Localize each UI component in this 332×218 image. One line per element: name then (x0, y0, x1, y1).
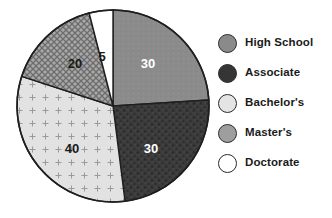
pie-slice-associate (113, 100, 209, 201)
legend-label-doctorate: Doctorate (245, 157, 300, 169)
pie-value-label-masters: 20 (68, 56, 82, 71)
legend-item-masters[interactable]: Master's (218, 122, 292, 144)
legend-swatch-doctorate (218, 154, 237, 173)
legend-swatch-high-school (218, 34, 237, 53)
legend-label-masters: Master's (245, 127, 292, 139)
legend-item-associate[interactable]: Associate (218, 62, 300, 84)
pie-value-label-high-school: 30 (141, 56, 155, 71)
legend-label-associate: Associate (245, 67, 300, 79)
legend-item-doctorate[interactable]: Doctorate (218, 152, 300, 174)
legend-swatch-masters (218, 124, 237, 143)
pie-value-label-bachelors: 40 (65, 141, 79, 156)
legend-item-bachelors[interactable]: Bachelor's (218, 92, 304, 114)
pie-value-label-associate: 30 (144, 141, 158, 156)
pie-value-label-doctorate: 5 (98, 49, 105, 64)
legend-label-bachelors: Bachelor's (245, 97, 304, 109)
legend-label-high-school: High School (245, 37, 313, 49)
legend-swatch-associate (218, 64, 237, 83)
legend-swatch-bachelors (218, 94, 237, 113)
chart-legend: High School Associate Bachelor's Master'… (218, 28, 332, 196)
legend-item-high-school[interactable]: High School (218, 32, 313, 54)
pie-slice-high-school (113, 10, 209, 106)
